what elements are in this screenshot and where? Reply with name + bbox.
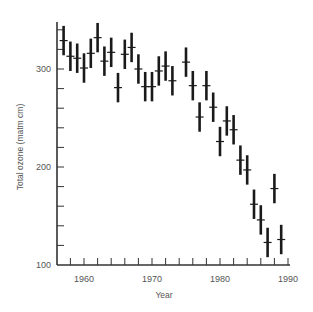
data-point: [107, 38, 115, 67]
data-point: [216, 127, 224, 156]
data-point: [128, 33, 136, 62]
data-point: [155, 56, 163, 85]
data-point: [94, 23, 102, 52]
data-point: [189, 71, 197, 100]
data-point: [100, 46, 108, 75]
data-point: [250, 190, 258, 219]
y-tick-label: 100: [36, 260, 51, 270]
x-axis-label: Year: [155, 290, 172, 300]
y-axis-label: Total ozone (matm cm): [15, 104, 25, 191]
data-point: [66, 42, 74, 71]
ozone-chart: 1002003001960197019801990 Total ozone (m…: [0, 0, 313, 312]
data-point: [230, 115, 238, 144]
data-point: [270, 174, 278, 203]
data-point: [148, 72, 156, 101]
data-point: [277, 225, 285, 254]
data-point: [168, 66, 176, 95]
data-point: [134, 54, 142, 83]
data-point: [162, 51, 170, 80]
data-series: [60, 23, 286, 257]
x-tick-label: 1970: [142, 274, 162, 284]
data-point: [114, 73, 122, 102]
x-tick-label: 1960: [74, 274, 94, 284]
data-point: [223, 106, 231, 135]
data-point: [196, 102, 204, 131]
axes: 1002003001960197019801990: [36, 22, 298, 284]
y-tick-label: 300: [36, 64, 51, 74]
data-point: [87, 39, 95, 68]
data-point: [264, 228, 272, 257]
data-point: [209, 93, 217, 122]
x-tick-label: 1990: [278, 274, 298, 284]
data-point: [257, 205, 265, 234]
y-tick-label: 200: [36, 162, 51, 172]
data-point: [121, 40, 129, 69]
x-tick-label: 1980: [210, 274, 230, 284]
data-point: [202, 71, 210, 100]
data-point: [182, 47, 190, 76]
